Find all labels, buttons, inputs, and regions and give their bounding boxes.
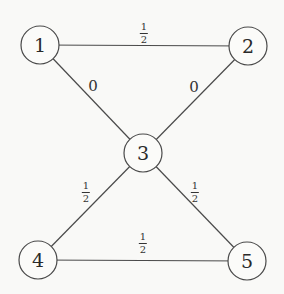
fraction: 1 2 — [139, 232, 147, 255]
edge-4-5-weight: 1 2 — [139, 227, 147, 255]
fraction-numerator: 1 — [139, 232, 147, 244]
edge-3-4-weight: 1 2 — [82, 176, 90, 204]
fraction: 1 2 — [140, 22, 148, 45]
node-4: 4 — [19, 241, 57, 279]
fraction: 1 2 — [82, 181, 90, 204]
fraction-denominator: 2 — [141, 34, 147, 45]
edge-1-2 — [40, 45, 248, 46]
fraction-numerator: 1 — [191, 181, 199, 193]
edge-4-5 — [38, 260, 247, 261]
fraction-numerator: 1 — [140, 22, 148, 34]
node-3: 3 — [124, 134, 162, 172]
node-3-label: 3 — [137, 142, 149, 164]
edge-3-5-weight: 1 2 — [191, 176, 199, 204]
fraction-denominator: 2 — [83, 193, 89, 204]
node-4-label: 4 — [32, 249, 44, 271]
node-2-label: 2 — [242, 35, 254, 57]
node-2: 2 — [229, 27, 267, 65]
node-5: 5 — [228, 242, 266, 280]
fraction-denominator: 2 — [140, 244, 146, 255]
edge-1-3 — [40, 45, 143, 153]
node-1-label: 1 — [34, 34, 46, 56]
node-1: 1 — [21, 26, 59, 64]
fraction: 1 2 — [191, 181, 199, 204]
fraction-denominator: 2 — [192, 193, 198, 204]
edge-3-5 — [143, 153, 247, 261]
fraction-numerator: 1 — [82, 181, 90, 193]
edge-1-3-weight: 0 — [88, 79, 98, 94]
node-5-label: 5 — [241, 250, 253, 272]
edge-1-2-weight: 1 2 — [140, 17, 148, 45]
edge-3-4 — [38, 153, 143, 260]
edge-2-3-weight: 0 — [189, 80, 199, 95]
edge-2-3 — [143, 46, 248, 153]
